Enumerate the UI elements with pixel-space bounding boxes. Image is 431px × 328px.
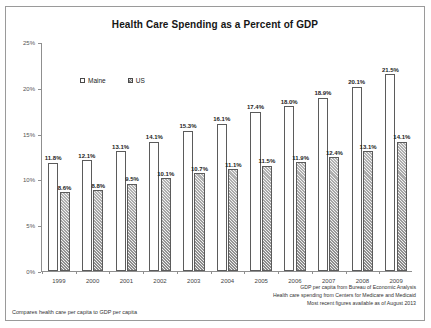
y-axis-tick-mark	[38, 226, 41, 227]
chart-card: Health Care Spending as a Percent of GDP…	[5, 6, 425, 321]
x-axis-tick-label: 2000	[86, 278, 99, 284]
y-axis-tick-label: 0%	[9, 269, 35, 275]
bar-group: 16.1%11.1%2004	[211, 43, 245, 271]
bar-value-label: 13.1%	[360, 144, 377, 150]
bar-us-2001[interactable]	[127, 184, 137, 271]
y-axis-tick-label: 25%	[9, 40, 35, 46]
footnote-left: Compares health care per capita to GDP p…	[12, 309, 137, 315]
bar-value-label: 17.4%	[247, 104, 264, 110]
x-axis-tick-mark	[379, 271, 380, 274]
bar-group: 18.9%12.4%2007	[312, 43, 346, 271]
bar-us-2005[interactable]	[262, 166, 272, 271]
y-axis-tick-mark	[38, 89, 41, 90]
y-axis-tick-label: 5%	[9, 223, 35, 229]
bar-value-label: 13.1%	[112, 144, 129, 150]
bar-us-2009[interactable]	[397, 142, 407, 271]
bar-value-label: 12.1%	[78, 153, 95, 159]
bar-group: 14.1%10.1%2002	[143, 43, 177, 271]
x-axis-tick-mark	[312, 271, 313, 274]
bar-group: 21.5%14.1%2009	[379, 43, 413, 271]
y-axis-tick-label: 20%	[9, 86, 35, 92]
x-axis-tick-mark	[211, 271, 212, 274]
y-axis-tick-label: 15%	[9, 132, 35, 138]
bar-group: 13.1%9.5%2001	[109, 43, 143, 271]
footnote-line: Health care spending from Centers for Me…	[273, 291, 416, 299]
bar-maine-2003[interactable]	[183, 131, 193, 271]
bar-us-2007[interactable]	[329, 157, 339, 271]
x-axis-tick-mark	[42, 271, 43, 274]
bar-maine-2009[interactable]	[385, 74, 395, 271]
bar-maine-2000[interactable]	[82, 160, 92, 271]
bar-maine-2001[interactable]	[116, 151, 126, 271]
bar-us-2008[interactable]	[363, 151, 373, 271]
bar-us-2000[interactable]	[93, 190, 103, 271]
bar-value-label: 11.8%	[45, 155, 62, 161]
x-axis-tick-label: 2003	[187, 278, 200, 284]
bar-us-2004[interactable]	[228, 169, 238, 271]
x-axis-tick-mark	[177, 271, 178, 274]
bar-us-1999[interactable]	[60, 192, 70, 271]
bar-value-label: 18.9%	[314, 90, 331, 96]
bar-value-label: 11.5%	[259, 158, 276, 164]
y-axis-tick-mark	[38, 43, 41, 44]
y-axis-tick-label: 10%	[9, 177, 35, 183]
bar-group: 20.1%13.1%2008	[346, 43, 380, 271]
bars-layer: 11.8%8.6%199912.1%8.8%200013.1%9.5%20011…	[42, 43, 412, 271]
bar-value-label: 8.8%	[91, 183, 105, 189]
x-axis-tick-mark	[76, 271, 77, 274]
bar-maine-2002[interactable]	[149, 142, 159, 271]
bar-us-2003[interactable]	[194, 173, 204, 271]
bar-group: 12.1%8.8%2000	[76, 43, 110, 271]
bar-value-label: 12.4%	[326, 150, 343, 156]
bar-value-label: 10.1%	[157, 171, 174, 177]
bar-group: 18.0%11.9%2006	[278, 43, 312, 271]
bar-value-label: 9.5%	[125, 176, 139, 182]
x-axis-line	[41, 271, 412, 272]
x-axis-tick-label: 2004	[221, 278, 234, 284]
bar-value-label: 10.7%	[191, 166, 208, 172]
x-axis-tick-mark	[109, 271, 110, 274]
bar-value-label: 8.6%	[58, 185, 72, 191]
bar-maine-2007[interactable]	[318, 98, 328, 271]
bar-value-label: 21.5%	[382, 67, 399, 73]
footnote-right: GDP per capita from Bureau of Economic A…	[273, 283, 416, 307]
bar-group: 11.8%8.6%1999	[42, 43, 76, 271]
bar-value-label: 18.0%	[281, 99, 298, 105]
x-axis-tick-label: 2002	[153, 278, 166, 284]
bar-us-2002[interactable]	[161, 178, 171, 271]
bar-maine-2004[interactable]	[217, 124, 227, 271]
x-axis-tick-label: 2001	[120, 278, 133, 284]
bar-maine-2005[interactable]	[250, 112, 260, 271]
bar-maine-2008[interactable]	[352, 87, 362, 271]
x-axis-tick-label: 2005	[255, 278, 268, 284]
x-axis-tick-label: 1999	[52, 278, 65, 284]
bar-value-label: 14.1%	[393, 134, 410, 140]
bar-group: 15.3%10.7%2003	[177, 43, 211, 271]
y-axis-tick-mark	[38, 272, 41, 273]
x-axis-tick-mark	[278, 271, 279, 274]
plot-area: 0%5%10%15%20%25% 11.8%8.6%199912.1%8.8%2…	[41, 43, 412, 272]
y-axis-tick-mark	[38, 135, 41, 136]
bar-group: 17.4%11.5%2005	[244, 43, 278, 271]
bar-value-label: 20.1%	[348, 79, 365, 85]
bar-value-label: 16.1%	[213, 116, 230, 122]
x-axis-tick-mark	[244, 271, 245, 274]
footnote-line: Most recent figures available as of Augu…	[273, 299, 416, 307]
bar-value-label: 15.3%	[180, 123, 197, 129]
bar-maine-2006[interactable]	[284, 106, 294, 271]
x-axis-tick-mark	[143, 271, 144, 274]
y-axis-tick-mark	[38, 180, 41, 181]
footnote-line: GDP per capita from Bureau of Economic A…	[273, 283, 416, 291]
bar-value-label: 14.1%	[146, 134, 163, 140]
bar-maine-1999[interactable]	[48, 163, 58, 271]
x-axis-tick-mark	[346, 271, 347, 274]
bar-us-2006[interactable]	[296, 162, 306, 271]
bar-value-label: 11.1%	[225, 162, 242, 168]
bar-value-label: 11.9%	[292, 155, 309, 161]
chart-title: Health Care Spending as a Percent of GDP	[6, 19, 424, 30]
